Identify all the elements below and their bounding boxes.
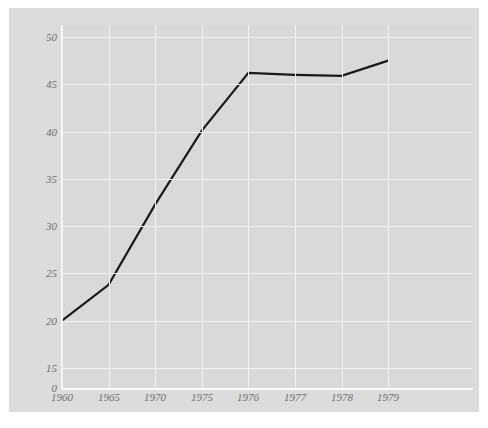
y-tick-label: 40: [13, 127, 57, 138]
x-tick-label: 1970: [134, 392, 176, 403]
y-tick-label: 25: [13, 268, 57, 279]
gridline-horizontal: [62, 321, 472, 322]
gridline-horizontal: [62, 37, 472, 38]
gridline-vertical: [295, 25, 296, 388]
x-tick-label: 1976: [227, 392, 269, 403]
y-tick-label: 45: [13, 79, 57, 90]
gridline-horizontal: [62, 179, 472, 180]
y-tick-label: 15: [13, 363, 57, 374]
gridline-vertical: [109, 25, 110, 388]
x-axis-spine: [62, 388, 473, 390]
gridline-horizontal: [62, 132, 472, 133]
x-tick-label: 1978: [321, 392, 363, 403]
line-series: [62, 25, 472, 388]
gridline-vertical: [62, 25, 63, 388]
gridline-vertical: [342, 25, 343, 388]
x-tick-label: 1977: [274, 392, 316, 403]
gridline-horizontal: [62, 226, 472, 227]
y-axis: 01520253035404550: [9, 8, 57, 428]
gridline-horizontal: [62, 273, 472, 274]
gridline-vertical: [388, 25, 389, 388]
x-tick-label: 1965: [88, 392, 130, 403]
plot-area: [62, 25, 472, 388]
y-tick-label: 50: [13, 32, 57, 43]
y-tick-label: 20: [13, 316, 57, 327]
gridline-horizontal: [62, 368, 472, 369]
x-tick-label: 1960: [41, 392, 83, 403]
gridline-horizontal: [62, 84, 472, 85]
gridline-vertical: [155, 25, 156, 388]
y-tick-label: 30: [13, 221, 57, 232]
x-tick-label: 1975: [181, 392, 223, 403]
chart-figure: 01520253035404550 1960196519701975197619…: [0, 0, 488, 428]
y-tick-label: 35: [13, 174, 57, 185]
x-tick-label: 1979: [367, 392, 409, 403]
gridline-vertical: [248, 25, 249, 388]
chart-panel: 01520253035404550 1960196519701975197619…: [9, 8, 479, 412]
series-polyline: [62, 61, 388, 321]
gridline-vertical: [202, 25, 203, 388]
